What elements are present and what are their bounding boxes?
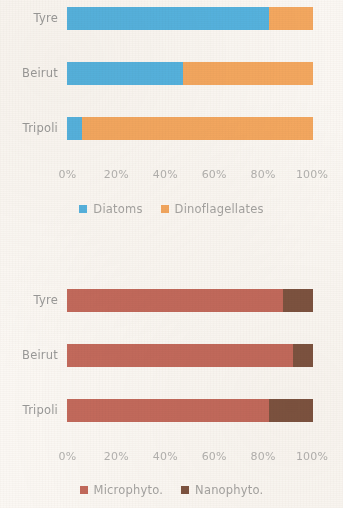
x-tick-0: 0%: [59, 450, 77, 463]
legend-item-dinoflagellates[interactable]: Dinoflagellates: [161, 202, 264, 216]
category-label-tyre-top: Tyre: [0, 4, 58, 32]
bar-segment-dinoflagellates-tyre: [269, 7, 313, 30]
category-label-tyre-bottom: Tyre: [0, 286, 58, 314]
x-tick-0: 0%: [59, 168, 77, 181]
stacked-bar-tripoli-top: [67, 117, 313, 140]
legend-label-diatoms: Diatoms: [93, 202, 142, 216]
x-tick-2: 40%: [153, 450, 178, 463]
x-tick-5: 100%: [296, 168, 328, 181]
legend-item-nanophyto[interactable]: Nanophyto.: [181, 483, 263, 497]
stacked-bar-beirut-top: [67, 62, 313, 85]
x-tick-1: 20%: [104, 168, 129, 181]
bar-row-tripoli-top: Tripoli: [0, 114, 343, 142]
bar-segment-nanophyto-tripoli: [269, 399, 313, 422]
legend-item-microphyto[interactable]: Microphyto.: [80, 483, 164, 497]
legend-swatch-diatoms-icon: [79, 205, 87, 213]
bar-segment-diatoms-beirut: [67, 62, 183, 85]
legend-top: Diatoms Dinoflagellates: [0, 201, 343, 217]
bar-segment-microphyto-beirut: [67, 344, 293, 367]
category-label-tripoli-bottom: Tripoli: [0, 396, 58, 424]
x-tick-5: 100%: [296, 450, 328, 463]
category-label-tripoli-top: Tripoli: [0, 114, 58, 142]
x-tick-4: 80%: [251, 450, 276, 463]
x-tick-4: 80%: [251, 168, 276, 181]
legend-item-diatoms[interactable]: Diatoms: [79, 202, 142, 216]
bar-segment-nanophyto-beirut: [293, 344, 313, 367]
legend-label-microphyto: Microphyto.: [94, 483, 164, 497]
bar-segment-dinoflagellates-beirut: [183, 62, 313, 85]
legend-bottom: Microphyto. Nanophyto.: [0, 482, 343, 498]
chart-diatoms-dinoflagellates: Tyre Beirut Tripoli 0% 20% 40% 60% 80: [0, 0, 343, 254]
legend-label-dinoflagellates: Dinoflagellates: [175, 202, 264, 216]
category-label-beirut-top: Beirut: [0, 59, 58, 87]
stacked-bar-tripoli-bottom: [67, 399, 313, 422]
bar-segment-microphyto-tyre: [67, 289, 283, 312]
bar-row-beirut-bottom: Beirut: [0, 341, 343, 369]
stacked-bar-tyre-top: [67, 7, 313, 30]
x-axis-top: 0% 20% 40% 60% 80% 100%: [0, 168, 343, 186]
stacked-bar-beirut-bottom: [67, 344, 313, 367]
chart-microphyto-nanophyto: Tyre Beirut Tripoli 0% 20% 40% 60% 80: [0, 254, 343, 508]
plot-area-top: Tyre Beirut Tripoli: [0, 0, 343, 160]
x-tick-3: 60%: [202, 168, 227, 181]
stacked-bar-tyre-bottom: [67, 289, 313, 312]
category-label-beirut-bottom: Beirut: [0, 341, 58, 369]
bar-row-tripoli-bottom: Tripoli: [0, 396, 343, 424]
legend-label-nanophyto: Nanophyto.: [195, 483, 263, 497]
bar-row-tyre-top: Tyre: [0, 4, 343, 32]
x-tick-3: 60%: [202, 450, 227, 463]
legend-swatch-dinoflagellates-icon: [161, 205, 169, 213]
bar-segment-diatoms-tripoli: [67, 117, 82, 140]
x-tick-1: 20%: [104, 450, 129, 463]
legend-swatch-microphyto-icon: [80, 486, 88, 494]
plot-area-bottom: Tyre Beirut Tripoli: [0, 282, 343, 442]
bar-row-tyre-bottom: Tyre: [0, 286, 343, 314]
x-tick-2: 40%: [153, 168, 178, 181]
legend-swatch-nanophyto-icon: [181, 486, 189, 494]
x-axis-bottom: 0% 20% 40% 60% 80% 100%: [0, 450, 343, 468]
bar-row-beirut-top: Beirut: [0, 59, 343, 87]
bar-segment-dinoflagellates-tripoli: [82, 117, 313, 140]
bar-segment-nanophyto-tyre: [283, 289, 313, 312]
bar-segment-microphyto-tripoli: [67, 399, 269, 422]
bar-segment-diatoms-tyre: [67, 7, 269, 30]
